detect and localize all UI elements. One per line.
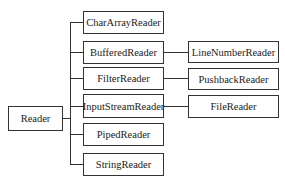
bufferedreader-label: BufferedReader <box>90 47 157 58</box>
trunk-line <box>70 22 71 165</box>
pipedreader-node: PipedReader <box>83 123 164 146</box>
inputstreamreader-label: InputStreamReader <box>83 101 165 112</box>
reader-node: Reader <box>8 106 63 131</box>
filterreader-node: FilterReader <box>83 67 164 90</box>
branch-inputstreamreader <box>70 106 83 107</box>
pipedreader-label: PipedReader <box>97 129 151 140</box>
pushbackreader-node: PushbackReader <box>188 68 279 90</box>
branch-chararrayreader <box>70 22 83 23</box>
linenumberreader-node: LineNumberReader <box>188 41 279 63</box>
filereader-label: FileReader <box>210 101 256 112</box>
bufferedreader-node: BufferedReader <box>83 41 164 64</box>
branch-stringreader <box>70 164 83 165</box>
branch-bufferedreader <box>70 52 83 53</box>
link-inputstream-file <box>163 106 188 107</box>
inputstreamreader-node: InputStreamReader <box>83 94 164 118</box>
branch-filterreader <box>70 78 83 79</box>
link-filter-pushback <box>163 78 188 79</box>
chararrayreader-label: CharArrayReader <box>86 17 161 28</box>
stringreader-label: StringReader <box>96 159 151 170</box>
branch-pipedreader <box>70 134 83 135</box>
pushbackreader-label: PushbackReader <box>199 74 269 85</box>
filereader-node: FileReader <box>188 95 279 118</box>
chararrayreader-node: CharArrayReader <box>83 11 164 34</box>
filterreader-label: FilterReader <box>97 73 149 84</box>
linenumberreader-label: LineNumberReader <box>192 47 275 58</box>
stringreader-node: StringReader <box>83 153 164 176</box>
link-buffered-linenumber <box>163 52 188 53</box>
reader-label: Reader <box>21 113 51 124</box>
